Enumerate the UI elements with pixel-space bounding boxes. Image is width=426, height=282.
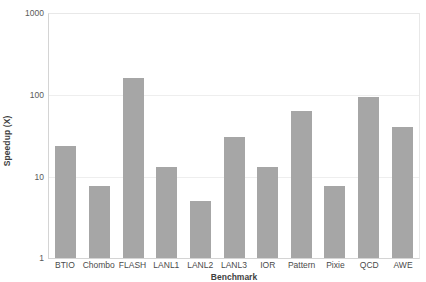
bar-qcd[interactable] [358, 97, 379, 258]
bar-slot [217, 14, 251, 258]
x-tick-pixie: Pixie [319, 261, 353, 270]
x-tick-chombo: Chombo [82, 261, 116, 270]
bar-lanl2[interactable] [190, 201, 211, 258]
x-tick-lanl2: LANL2 [183, 261, 217, 270]
y-tick-1: 1 [12, 254, 44, 263]
plot-area [48, 13, 420, 259]
y-tick-10: 10 [12, 173, 44, 182]
x-tick-btio: BTIO [48, 261, 82, 270]
bar-pixie[interactable] [324, 186, 345, 258]
x-tick-pattern: Pattern [285, 261, 319, 270]
bar-flash[interactable] [123, 78, 144, 258]
y-tick-1000: 1000 [12, 9, 44, 18]
x-tick-ior: IOR [251, 261, 285, 270]
bars-layer [49, 14, 419, 258]
x-tick-awe: AWE [386, 261, 420, 270]
bar-slot [83, 14, 117, 258]
speedup-bar-chart: Speedup (X) 1000 100 10 1 BTIOChomboFLAS… [0, 0, 426, 282]
x-tick-flash: FLASH [116, 261, 150, 270]
bar-awe[interactable] [392, 127, 413, 258]
bar-btio[interactable] [55, 146, 76, 258]
x-tick-lanl3: LANL3 [217, 261, 251, 270]
y-axis-tick-labels: 1000 100 10 1 [12, 0, 44, 282]
y-axis-title-label: Speedup (X) [2, 116, 12, 167]
bar-slot [352, 14, 386, 258]
bar-slot [49, 14, 83, 258]
bar-slot [184, 14, 218, 258]
bar-slot [318, 14, 352, 258]
bar-slot [284, 14, 318, 258]
bar-slot [385, 14, 419, 258]
x-tick-qcd: QCD [352, 261, 386, 270]
bar-slot [251, 14, 285, 258]
bar-ior[interactable] [257, 167, 278, 258]
bar-chombo[interactable] [89, 186, 110, 258]
bar-lanl3[interactable] [224, 137, 245, 258]
y-tick-100: 100 [12, 91, 44, 100]
x-axis-title: Benchmark [48, 272, 420, 282]
bar-slot [116, 14, 150, 258]
bar-pattern[interactable] [291, 111, 312, 258]
bar-slot [150, 14, 184, 258]
bar-lanl1[interactable] [156, 167, 177, 258]
x-tick-lanl1: LANL1 [149, 261, 183, 270]
